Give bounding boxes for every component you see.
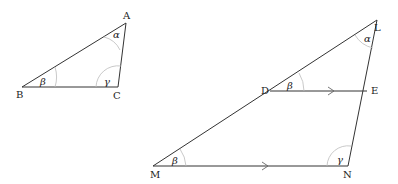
vertex-label-l: L [374,22,381,33]
angle-arc-m [180,149,186,166]
vertex-label-a: A [122,10,131,21]
triangle-abc-edges [22,23,126,87]
vertex-label-e: E [371,85,378,96]
similar-triangles-diagram: A B C α β γ L D E M N α β β γ [0,0,398,184]
angle-label-alpha: α [113,29,120,40]
vertex-label-d: D [261,85,269,96]
diagram-svg: A B C α β γ L D E M N α β β γ [0,0,398,184]
angle-arc-d [299,73,304,91]
vertex-label-c: C [113,90,121,101]
angle-label-gamma-n: γ [337,154,343,165]
vertex-label-m: M [150,169,160,180]
triangle-abc: A B C α β γ [16,10,131,101]
triangle-lmn: L D E M N α β β γ [150,20,381,180]
angle-label-beta: β [39,76,46,87]
angle-label-gamma: γ [104,76,110,87]
angle-label-beta-d: β [286,80,293,91]
angle-label-alpha-l: α [364,33,371,44]
angle-arc-b [55,67,57,87]
vertex-label-n: N [343,169,352,180]
vertex-label-b: B [16,89,23,100]
angle-label-beta-m: β [171,155,178,166]
